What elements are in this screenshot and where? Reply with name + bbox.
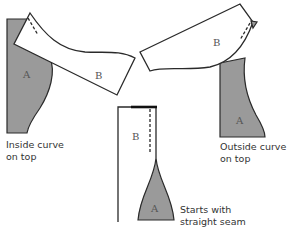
seam-diagram: A B B A B A xyxy=(0,0,291,232)
left-seam-example: A B xyxy=(7,13,135,133)
center-label-b: B xyxy=(132,131,139,142)
caption-straight-seam: Starts with straight seam xyxy=(180,204,246,228)
center-seam-example: B A xyxy=(118,107,174,222)
right-seam-example: B A xyxy=(140,4,265,137)
right-label-a: A xyxy=(235,115,244,126)
caption-inside-curve-line2: on top xyxy=(6,151,64,163)
left-label-b: B xyxy=(95,70,102,81)
caption-straight-seam-line2: straight seam xyxy=(180,216,246,228)
caption-inside-curve: Inside curve on top xyxy=(6,139,64,163)
caption-inside-curve-line1: Inside curve xyxy=(6,139,64,151)
caption-outside-curve-line2: on top xyxy=(220,153,286,165)
center-label-a: A xyxy=(150,203,159,214)
right-piece-a-tip xyxy=(251,21,257,28)
right-label-b: B xyxy=(213,37,220,48)
left-label-a: A xyxy=(22,69,31,80)
caption-outside-curve: Outside curve on top xyxy=(220,141,286,165)
caption-outside-curve-line1: Outside curve xyxy=(220,141,286,153)
caption-straight-seam-line1: Starts with xyxy=(180,204,246,216)
